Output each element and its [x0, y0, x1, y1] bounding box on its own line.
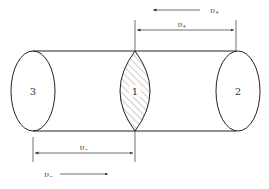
- region-2-label: 2: [235, 86, 241, 97]
- bottom-dimension-label: υ−: [79, 143, 88, 152]
- top-dimension-label: υ+: [177, 20, 186, 29]
- region-1-label: 1: [132, 86, 138, 97]
- cylinder-diagram: 3 2 1 υ+ υ+ υ− υ−: [0, 0, 269, 189]
- bottom-velocity-label: υ−: [44, 170, 53, 179]
- region-3-label: 3: [30, 86, 36, 97]
- top-velocity-label: υ+: [210, 6, 219, 15]
